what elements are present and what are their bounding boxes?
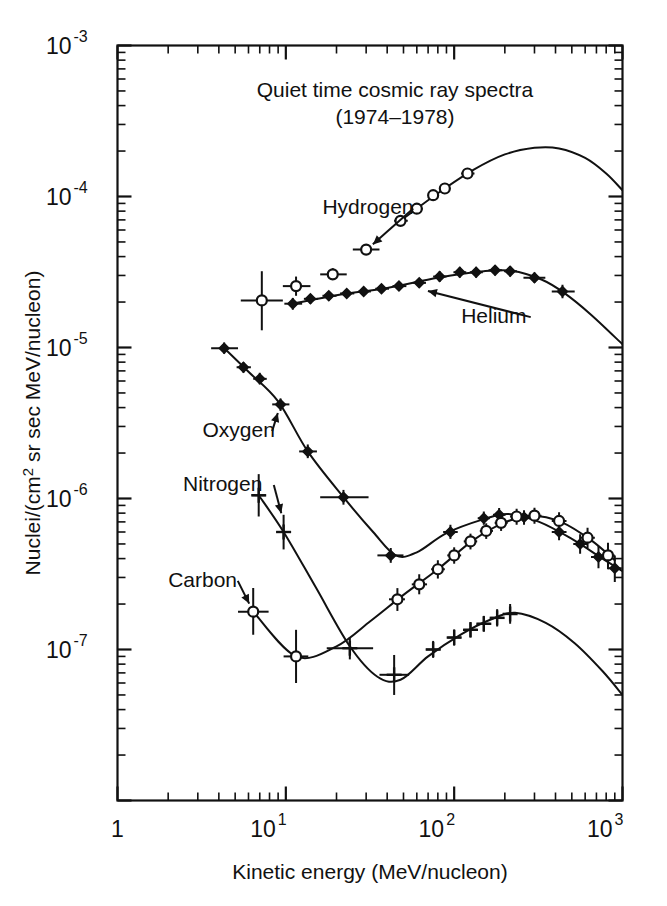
data-point[interactable] — [238, 588, 269, 635]
data-point[interactable] — [433, 271, 446, 282]
y-axis-label-superscript: 2 — [19, 468, 36, 476]
marker-filled-diamond — [414, 278, 424, 288]
data-point[interactable] — [375, 284, 389, 294]
plot-frame — [118, 46, 623, 801]
marker-filled-diamond — [288, 299, 298, 309]
marker-filled-diamond — [342, 288, 352, 298]
marker-open-circle — [512, 511, 522, 521]
series-label-hydrogen: Hydrogen — [322, 195, 413, 218]
data-point[interactable] — [322, 291, 336, 301]
marker-open-circle — [428, 190, 438, 200]
data-point[interactable] — [461, 169, 474, 179]
marker-filled-diamond — [505, 266, 515, 276]
data-point[interactable] — [283, 277, 311, 296]
data-point[interactable] — [276, 515, 291, 550]
data-point[interactable] — [299, 444, 317, 458]
data-point[interactable] — [320, 268, 347, 280]
x-tick-label-exponent-3: 3 — [615, 811, 624, 828]
annotation-oxygen: Oxygen — [203, 413, 280, 441]
series-label-carbon: Carbon — [168, 568, 237, 591]
data-point[interactable] — [320, 490, 368, 505]
data-point[interactable] — [241, 271, 283, 330]
data-point[interactable] — [377, 548, 403, 563]
marker-open-circle — [449, 550, 459, 560]
data-point[interactable] — [392, 281, 406, 291]
data-point[interactable] — [443, 525, 458, 539]
marker-open-circle — [248, 607, 258, 617]
marker-open-circle — [496, 518, 506, 528]
y-tick-label-exponent-3: -6 — [74, 481, 88, 498]
y-tick-label-base-2: 10 — [46, 335, 72, 361]
x-tick-label-0: 1 — [111, 816, 124, 842]
data-point[interactable] — [503, 604, 518, 624]
annotation-hydrogen: Hydrogen — [322, 195, 413, 244]
data-point[interactable] — [358, 286, 370, 296]
chart-subtitle: (1974–1978) — [335, 105, 454, 128]
y-tick-label-0: 10-3 — [46, 28, 88, 59]
annotation-helium: Helium — [428, 289, 531, 327]
marker-filled-diamond — [529, 273, 539, 283]
data-point[interactable] — [353, 244, 380, 255]
marker-filled-diamond — [394, 281, 404, 291]
chart-title: Quiet time cosmic ray spectra — [257, 78, 534, 101]
marker-filled-diamond — [471, 267, 481, 277]
marker-filled-diamond — [324, 291, 334, 301]
data-point[interactable] — [504, 266, 517, 277]
chart-canvas: 10-310-410-510-610-71101102103Kinetic en… — [0, 0, 667, 906]
annotation-carbon: Carbon — [168, 568, 249, 604]
marker-filled-diamond — [445, 527, 455, 537]
data-point[interactable] — [340, 288, 354, 298]
data-point[interactable] — [440, 183, 451, 193]
marker-open-circle — [291, 651, 301, 661]
data-point[interactable] — [447, 629, 462, 645]
marker-open-circle — [465, 536, 475, 546]
data-point[interactable] — [490, 609, 505, 626]
x-tick-label-2: 102 — [419, 811, 456, 842]
data-point[interactable] — [476, 616, 491, 632]
marker-filled-diamond — [455, 267, 465, 277]
marker-filled-diamond — [359, 286, 369, 296]
y-tick-label-base-3: 10 — [46, 486, 72, 512]
data-point[interactable] — [412, 574, 427, 594]
marker-open-circle — [554, 516, 564, 526]
y-tick-label-4: 10-7 — [46, 632, 88, 663]
y-axis-label-part1: Nuclei/(cm — [21, 476, 44, 575]
x-tick-label-exponent-2: 2 — [446, 811, 455, 828]
data-point[interactable] — [284, 630, 309, 683]
y-tick-label-base-1: 10 — [46, 184, 72, 210]
y-axis-label-part2: sr sec MeV/nucleon) — [21, 271, 44, 468]
data-point[interactable] — [510, 509, 523, 525]
x-tick-label-exponent-1: 1 — [278, 811, 287, 828]
y-tick-label-2: 10-5 — [46, 330, 88, 361]
marker-filled-diamond — [305, 294, 315, 304]
marker-open-circle — [462, 169, 472, 179]
data-point[interactable] — [489, 265, 502, 275]
cosmic-ray-spectra-figure: 10-310-410-510-610-71101102103Kinetic en… — [0, 0, 667, 906]
data-point[interactable] — [552, 512, 567, 530]
x-tick-label-1: 101 — [250, 811, 287, 842]
data-point[interactable] — [389, 588, 405, 611]
y-tick-label-exponent-2: -5 — [74, 330, 88, 347]
data-point[interactable] — [447, 547, 461, 563]
data-point[interactable] — [304, 294, 318, 304]
marker-open-circle — [603, 550, 613, 560]
data-point[interactable] — [463, 622, 478, 638]
data-point[interactable] — [453, 267, 466, 278]
series-helium — [211, 265, 622, 411]
series-curve-hydrogen — [401, 147, 623, 221]
data-point[interactable] — [428, 190, 439, 200]
marker-open-circle — [328, 269, 338, 279]
data-point[interactable] — [470, 267, 483, 278]
data-point[interactable] — [478, 512, 490, 525]
tick-marks — [118, 46, 623, 801]
x-tick-label-3: 103 — [587, 811, 624, 842]
marker-filled-diamond — [376, 284, 386, 294]
marker-filled-diamond — [490, 265, 500, 275]
data-point[interactable] — [480, 523, 493, 539]
y-tick-label-exponent-1: -4 — [74, 179, 88, 196]
data-point[interactable] — [284, 298, 302, 310]
marker-filled-diamond — [479, 513, 489, 523]
data-point[interactable] — [379, 655, 409, 695]
marker-open-circle — [414, 579, 424, 589]
data-point[interactable] — [431, 560, 445, 578]
